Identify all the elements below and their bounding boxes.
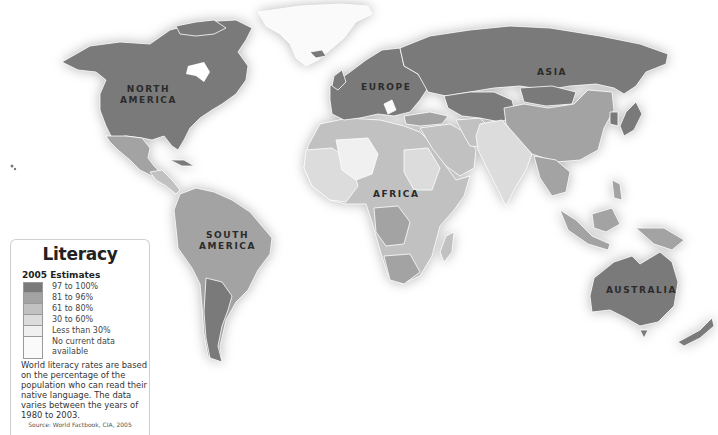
region-turkey	[404, 112, 448, 126]
legend-label: 61 to 80%	[52, 304, 132, 314]
region-tasmania	[640, 330, 648, 338]
legend-label: Less than 30%	[52, 326, 132, 336]
legend-item: 61 to 80%	[23, 304, 132, 315]
legend-label: 97 to 100%	[52, 282, 132, 292]
region-hawaii	[11, 165, 14, 168]
region-argentina	[204, 278, 232, 362]
label-line: SOUTH	[199, 230, 256, 241]
legend-items: 97 to 100% 81 to 96% 61 to 80% 30 to 60%…	[23, 282, 132, 359]
region-madagascar	[440, 232, 454, 262]
label-line: AMERICA	[199, 241, 256, 252]
legend-swatch	[23, 304, 43, 315]
continent-label-south-america: SOUTH AMERICA	[199, 230, 256, 252]
legend-swatch	[23, 337, 43, 359]
continent-label-australia: AUSTRALIA	[606, 285, 677, 296]
legend-title: Literacy	[11, 244, 149, 264]
region-central-america	[150, 170, 180, 194]
legend-item: No current data available	[23, 337, 132, 359]
legend-subtitle: 2005 Estimates	[22, 270, 100, 280]
legend-item: 81 to 96%	[23, 293, 132, 304]
label-line: AUSTRALIA	[606, 285, 677, 296]
legend-swatch	[23, 326, 43, 337]
legend-label: 81 to 96%	[52, 293, 132, 303]
region-cuba	[170, 160, 194, 166]
region-new-guinea	[636, 228, 684, 250]
region-mexico	[106, 136, 160, 176]
legend-swatch	[23, 282, 43, 293]
continent-label-north-america: NORTH AMERICA	[120, 84, 177, 106]
region-se-asia	[534, 156, 570, 196]
region-japan	[620, 102, 642, 136]
legend-item: 30 to 60%	[23, 315, 132, 326]
legend-note: World literacy rates are based on the pe…	[21, 360, 149, 420]
legend-item: Less than 30%	[23, 326, 132, 337]
legend-source: Source: World Factbook, CIA, 2005	[11, 421, 149, 428]
legend-swatch	[23, 315, 43, 326]
continent-label-asia: ASIA	[537, 67, 567, 78]
continent-label-africa: AFRICA	[373, 189, 420, 200]
label-line: ASIA	[537, 67, 567, 78]
legend-swatch	[23, 293, 43, 304]
legend-label: 30 to 60%	[52, 315, 132, 325]
region-russia	[400, 26, 668, 96]
region-hawaii	[14, 168, 16, 170]
label-line: AMERICA	[120, 95, 177, 106]
map-legend: Literacy 2005 Estimates 97 to 100% 81 to…	[10, 239, 150, 435]
region-korea	[610, 112, 618, 126]
region-borneo	[592, 208, 620, 232]
region-new-zealand	[678, 318, 714, 346]
label-line: EUROPE	[361, 82, 411, 93]
label-line: NORTH	[120, 84, 177, 95]
legend-label: No current data available	[52, 337, 132, 357]
continent-label-europe: EUROPE	[361, 82, 411, 93]
region-south-america	[174, 188, 272, 362]
label-line: AFRICA	[373, 189, 420, 200]
legend-item: 97 to 100%	[23, 282, 132, 293]
region-mongolia	[520, 86, 576, 106]
region-philippines	[612, 180, 622, 200]
